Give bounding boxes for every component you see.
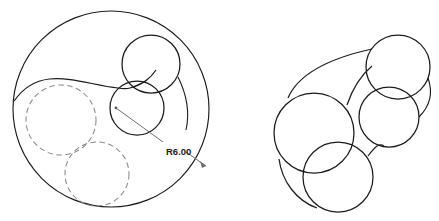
left-fillet-arc-right [178, 77, 188, 130]
right-figure [274, 35, 430, 212]
right-fillet-arc-upper-left [288, 49, 372, 98]
dimension-leader-line [116, 108, 163, 142]
left-figure: R6.00 [13, 11, 209, 207]
cad-drawing-svg: R6.00 [0, 0, 439, 221]
left-outer-circle [13, 11, 209, 207]
right-solid-circle-bottom [303, 142, 373, 212]
right-fillet-arc-lower-left [279, 159, 317, 208]
left-dashed-circle-bottom [65, 142, 129, 206]
right-fillet-arc-valley [347, 66, 372, 105]
right-solid-circle-left [274, 93, 354, 173]
right-solid-circle-top [366, 35, 430, 99]
radius-dimension-label: R6.00 [166, 146, 191, 157]
dimension-arrowhead [200, 161, 206, 168]
cad-drawing-canvas: R6.00 [0, 0, 439, 221]
radius-dimension: R6.00 [115, 107, 206, 168]
right-solid-circle-middle [359, 87, 419, 147]
